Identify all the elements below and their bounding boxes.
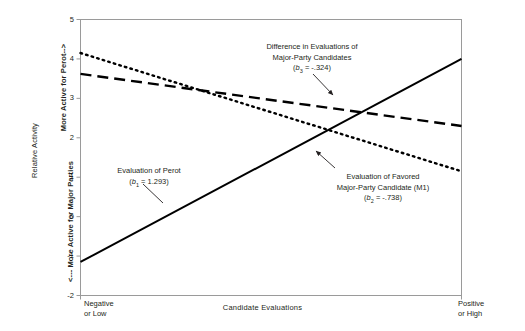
annotation-difference-line2: Major-Party Candidates <box>232 53 392 64</box>
annotation-difference: Difference in Evaluations of Major-Party… <box>232 42 392 76</box>
leader-line-favored <box>316 151 335 168</box>
coef-rest: = 1.293) <box>139 177 169 186</box>
data-series-group <box>81 53 462 262</box>
coef-rest: = -.324) <box>303 63 331 72</box>
leader-line-difference <box>313 74 333 95</box>
annotation-perot-line1: Evaluation of Perot <box>84 166 214 177</box>
coef-rest: = -.738) <box>374 193 402 202</box>
series-line-dashed <box>81 74 462 126</box>
annotation-perot-coef: (b1 = 1.293) <box>84 177 214 190</box>
series-line-solid <box>81 59 462 262</box>
annotation-difference-line1: Difference in Evaluations of <box>232 42 392 53</box>
figure-chart: Relative Activity More Active for Perot-… <box>0 0 525 331</box>
annotation-difference-coef: (b3 = -.324) <box>232 63 392 76</box>
annotation-favored-line1: Evaluation of Favored <box>308 172 458 183</box>
annotation-favored: Evaluation of Favored Major-Party Candid… <box>308 172 458 206</box>
annotation-favored-line2: Major-Party Candidate (M1) <box>308 183 458 194</box>
annotation-perot: Evaluation of Perot (b1 = 1.293) <box>84 166 214 190</box>
annotation-favored-coef: (b2 = -.738) <box>308 193 458 206</box>
